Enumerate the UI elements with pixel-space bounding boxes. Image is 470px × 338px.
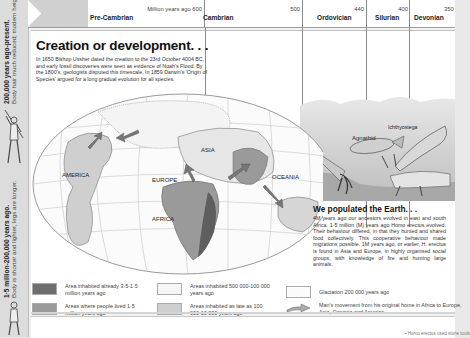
map-label-america: AMERICA xyxy=(62,172,89,178)
period-ordovician: Ordovician 440 xyxy=(303,0,367,27)
legend-item: Areas inhabited as late as 100 000-10 00… xyxy=(157,303,272,317)
sidebar-bottom-caption: 1·5 million-200,000 years ago. Body is s… xyxy=(3,181,17,298)
period-age: 500 xyxy=(290,6,300,12)
period-name: Ordovician xyxy=(317,14,351,21)
period-name: Cambrian xyxy=(203,14,233,21)
legend-text: Glaciation 200 000 years ago xyxy=(319,289,439,296)
map-label-europe: EUROPE xyxy=(152,177,177,183)
legend-swatch xyxy=(157,283,182,295)
world-migration-map xyxy=(28,92,323,277)
period-age: 440 xyxy=(354,6,364,12)
period-silurian: Silurian 400 xyxy=(367,0,410,27)
legend-text: Areas inhabited as late as 100 000-10 00… xyxy=(190,303,272,317)
period-precambrian: Pre-Cambrian Million years ago 600 xyxy=(28,0,205,27)
populated-title: We populated the Earth. . . xyxy=(313,204,417,214)
standing-human-figure-icon xyxy=(3,108,25,168)
creature-label-agnathid: Agnathid xyxy=(352,135,376,141)
map-label-africa: AFRICA xyxy=(152,216,174,222)
legend-text: Areas where people lived 1·5 million yea… xyxy=(65,303,150,317)
legend-item: Glaciation 200 000 years ago xyxy=(286,286,439,298)
legend-text: Area inhabited already 3·5-1·5 million y… xyxy=(65,283,145,297)
sidebar-bottom-text: Body is shorter and lighter, legs are lo… xyxy=(10,181,17,298)
geological-timeline: Pre-Cambrian Million years ago 600 Cambr… xyxy=(28,0,455,28)
sidebar-top-text: Body hair much reduced; modern height ac… xyxy=(10,0,17,104)
prehistoric-creatures-illustration xyxy=(300,96,455,201)
legend-item: Area inhabited already 3·5-1·5 million y… xyxy=(32,283,145,297)
legend-swatch xyxy=(32,283,57,295)
period-age: 350 xyxy=(444,6,454,12)
sidebar-top-caption: 200,000 years ago-present. Body hair muc… xyxy=(3,0,17,104)
next-section-panel xyxy=(31,316,455,338)
legend-item: Areas where people lived 1·5 million yea… xyxy=(32,303,150,317)
map-label-asia: ASIA xyxy=(201,147,215,153)
sidebar-top-heading: 200,000 years ago-present. xyxy=(3,20,10,104)
sidebar-strip: 200,000 years ago-present. Body hair muc… xyxy=(0,0,29,337)
divider xyxy=(31,312,455,314)
period-name: Pre-Cambrian xyxy=(90,14,133,21)
sidebar-bottom-heading: 1·5 million-200,000 years ago. xyxy=(3,205,10,298)
legend-swatch xyxy=(286,286,311,298)
footer-note: ▪ Homo erectus used stone tools xyxy=(405,331,470,336)
map-label-oceania: OCEANIA xyxy=(272,174,299,180)
intro-paragraph: In 1650 Bishop Ussher dated the creation… xyxy=(36,56,211,82)
human-ancestor-figure-icon xyxy=(3,300,25,336)
populated-paragraph: 4M years ago our ancestors evolved in ea… xyxy=(313,215,446,268)
period-name: Devonian xyxy=(414,14,444,21)
period-age: Million years ago 600 xyxy=(147,6,202,12)
legend-item: Areas inhabited 500 000-100 000 years ag… xyxy=(157,283,272,297)
legend-text: Areas inhabited 500 000-100 000 years ag… xyxy=(190,283,272,297)
creature-label-ichthyostega: Ichthyostega xyxy=(388,124,417,130)
page-title: Creation or development. . . xyxy=(36,38,208,53)
period-cambrian: Cambrian 500 xyxy=(205,0,303,27)
period-name: Silurian xyxy=(375,14,399,21)
period-age: 400 xyxy=(398,6,408,12)
period-devonian: Devonian 350 xyxy=(410,0,455,27)
